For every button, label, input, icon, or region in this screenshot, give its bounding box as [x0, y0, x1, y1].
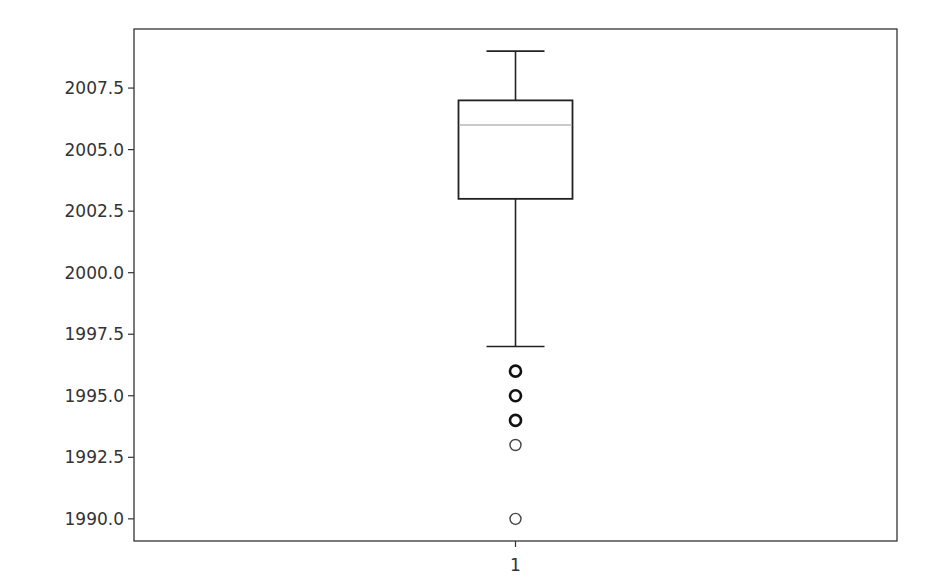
y-tick-label: 2007.5	[65, 78, 124, 98]
y-tick-label: 2000.0	[65, 263, 124, 283]
y-tick-label: 2005.0	[65, 140, 124, 160]
outlier-point	[510, 513, 521, 524]
y-tick-label: 2002.5	[65, 201, 124, 221]
y-tick-label: 1990.0	[65, 509, 124, 529]
y-axis: 1990.01992.51995.01997.52000.02002.52005…	[65, 78, 134, 529]
y-tick-label: 1995.0	[65, 386, 124, 406]
outlier-point	[510, 415, 521, 426]
iqr-box	[459, 100, 573, 198]
outlier-point	[510, 366, 521, 377]
box-plot-series-1	[459, 51, 573, 524]
boxplot-chart: 1990.01992.51995.01997.52000.02002.52005…	[0, 0, 937, 583]
x-axis: 1	[510, 541, 521, 575]
y-tick-label: 1992.5	[65, 447, 124, 467]
y-tick-label: 1997.5	[65, 324, 124, 344]
outlier-point	[510, 390, 521, 401]
x-tick-label: 1	[510, 555, 521, 575]
outlier-point	[510, 440, 521, 451]
